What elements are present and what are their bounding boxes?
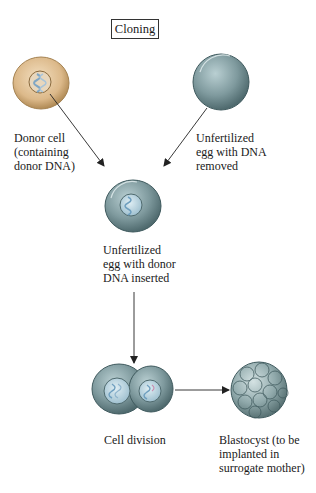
blastocyst-label: Blastocyst (to be implanted in surrogate… [219, 433, 305, 475]
egg-with-donor-dna-label: Unfertilized egg with donor DNA inserted [103, 243, 176, 285]
two-cell-embryo-icon [92, 364, 173, 414]
blastocyst-icon [231, 362, 288, 418]
unfertilized-egg-label: Unfertilized egg with DNA removed [196, 131, 267, 173]
donor-cell-icon [13, 57, 69, 109]
cell-division-label: Cell division [104, 433, 166, 447]
enucleated-egg-icon [193, 54, 249, 110]
egg-with-donor-dna-icon [105, 180, 161, 232]
donor-cell-label: Donor cell (containing donor DNA) [14, 131, 75, 173]
diagram-title: Cloning [111, 19, 159, 39]
